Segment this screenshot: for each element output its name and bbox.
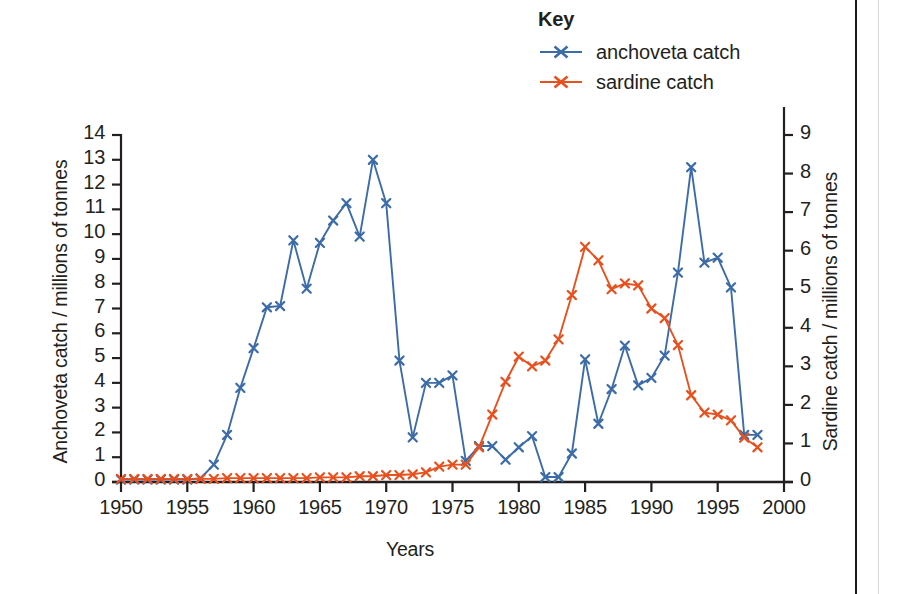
page-edge-rule-2	[878, 0, 879, 594]
x-axis-title: Years	[0, 538, 820, 561]
y-axis-right-title: Sardine catch / millions of tonnes	[819, 102, 842, 522]
axis-label-layer: 0123456789101112131401234567891950195519…	[0, 0, 900, 594]
x-tick-label-2000: 2000	[744, 496, 824, 519]
y-axis-left-title: Anchoveta catch / millions of tonnes	[49, 102, 72, 522]
page-edge-rule	[855, 0, 857, 594]
figure-root: Key anchoveta catch sardine catch	[0, 0, 900, 594]
